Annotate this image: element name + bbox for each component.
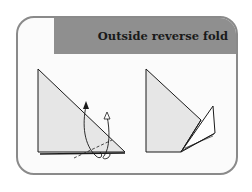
step-after-illustration xyxy=(146,69,215,152)
step-before-illustration xyxy=(38,69,125,159)
fold-diagram xyxy=(0,0,252,192)
